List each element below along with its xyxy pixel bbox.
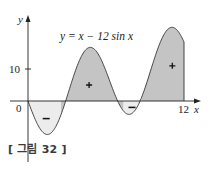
origin-label: 0 [16,102,22,114]
figure-caption: [ 그림 32 ] [8,140,67,156]
positive-region-3 [142,27,184,101]
x-tick-label-12: 12 [178,103,189,115]
shaded-regions [28,27,184,134]
equation-label: y = x − 12 sin x [59,30,134,43]
negative-region-0 [28,101,61,135]
x-axis-label: x [193,103,199,115]
y-axis-arrow-icon [26,15,31,22]
positive-region-1 [61,47,124,114]
negative-region-2 [124,97,142,114]
y-axis-label: y [17,13,23,25]
y-tick-label-10: 10 [9,63,21,75]
